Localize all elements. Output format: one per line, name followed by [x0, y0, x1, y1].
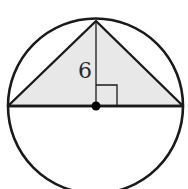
height-label: 6 [78, 58, 92, 83]
center-point [92, 102, 101, 111]
circle-triangle-diagram: 6 [0, 0, 188, 189]
